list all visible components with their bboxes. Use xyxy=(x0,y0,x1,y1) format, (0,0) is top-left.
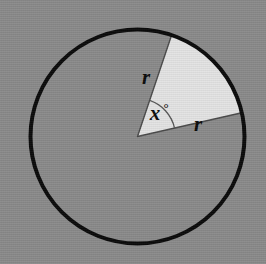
angle-label: x xyxy=(149,101,161,125)
geometry-figure: r r x ° xyxy=(0,0,266,264)
degree-symbol: ° xyxy=(163,100,168,115)
radius-upper-label: r xyxy=(142,65,151,89)
radius-lower-label: r xyxy=(194,112,203,136)
circle-sector-diagram: r r x ° xyxy=(0,0,266,264)
